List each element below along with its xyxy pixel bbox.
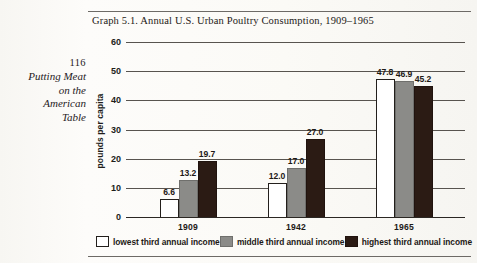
legend-item-series-1[interactable]: middle third annual income <box>220 236 345 247</box>
legend-item-series-0[interactable]: lowest third annual income <box>96 236 220 247</box>
bar-1909-series-2[interactable]: 19.7 <box>198 43 217 218</box>
y-tick-label-40: 40 <box>111 95 121 105</box>
legend-swatch-icon <box>96 236 109 247</box>
y-tick-label-10: 10 <box>111 183 121 193</box>
bar-value-label: 13.2 <box>180 168 196 178</box>
bar-rect <box>179 180 198 219</box>
y-tick-label-0: 0 <box>116 212 121 222</box>
bar-value-label: 19.7 <box>199 149 215 159</box>
bar-rect <box>376 79 395 218</box>
page-number: 116 <box>8 56 86 69</box>
bar-rect <box>414 86 433 218</box>
top-rule <box>88 11 471 12</box>
bar-1942-series-0[interactable]: 12.0 <box>268 43 287 218</box>
bottom-rule <box>88 256 471 257</box>
bar-rect <box>287 168 306 218</box>
bar-value-label: 12.0 <box>269 171 285 181</box>
bar-1942-series-1[interactable]: 17.0 <box>287 43 306 218</box>
y-tick-label-60: 60 <box>111 37 121 47</box>
running-head-line-1: on the <box>8 84 86 98</box>
bar-value-label: 45.2 <box>415 74 431 84</box>
x-axis-line <box>126 217 465 218</box>
bar-value-label: 17.0 <box>288 156 304 166</box>
bar-1965-series-2[interactable]: 45.2 <box>414 43 433 218</box>
legend-item-series-2[interactable]: highest third annual income <box>345 236 472 247</box>
x-axis-label-1942: 1942 <box>286 222 306 232</box>
legend-label: lowest third annual income <box>113 237 220 247</box>
legend-swatch-icon <box>345 236 358 247</box>
bar-rect <box>306 139 325 218</box>
bar-value-label: 46.9 <box>396 69 412 79</box>
bar-1909-series-0[interactable]: 6.6 <box>160 43 179 218</box>
plot-area: pounds per capita 0102030405060 6.613.21… <box>126 43 465 218</box>
y-tick-label-50: 50 <box>111 66 121 76</box>
legend-label: highest third annual income <box>362 237 472 247</box>
chart-title: Graph 5.1. Annual U.S. Urban Poultry Con… <box>92 15 374 26</box>
x-axis-label-1909: 1909 <box>178 222 198 232</box>
bar-1965-series-1[interactable]: 46.9 <box>395 43 414 218</box>
bar-1965-series-0[interactable]: 47.8 <box>376 43 395 218</box>
running-head-line-2: American <box>8 97 86 111</box>
scanned-book-page: 116 Putting Meaton theAmericanTable Grap… <box>0 0 477 263</box>
bar-rect <box>268 183 287 218</box>
y-tick-label-30: 30 <box>111 125 121 135</box>
bar-group-1942: 12.017.027.01942 <box>268 43 325 218</box>
page-margin-block: 116 Putting Meaton theAmericanTable <box>8 56 86 124</box>
bar-rect <box>395 81 414 218</box>
bar-group-1965: 47.846.945.21965 <box>376 43 433 218</box>
bar-rect <box>160 199 179 218</box>
y-tick-label-20: 20 <box>111 154 121 164</box>
chart-legend: lowest third annual incomemiddle third a… <box>96 236 472 247</box>
bar-1942-series-2[interactable]: 27.0 <box>306 43 325 218</box>
running-head: Putting Meaton theAmericanTable <box>8 70 86 124</box>
bar-1909-series-1[interactable]: 13.2 <box>179 43 198 218</box>
running-head-line-0: Putting Meat <box>8 70 86 84</box>
bar-rect <box>198 161 217 218</box>
bar-group-1909: 6.613.219.71909 <box>160 43 217 218</box>
bar-value-label: 6.6 <box>163 187 175 197</box>
bar-value-label: 47.8 <box>377 67 393 77</box>
legend-label: middle third annual income <box>237 237 345 247</box>
running-head-line-3: Table <box>8 111 86 125</box>
x-axis-label-1965: 1965 <box>394 222 414 232</box>
y-axis-title: pounds per capita <box>95 93 105 168</box>
bar-value-label: 27.0 <box>307 127 323 137</box>
legend-swatch-icon <box>220 236 233 247</box>
